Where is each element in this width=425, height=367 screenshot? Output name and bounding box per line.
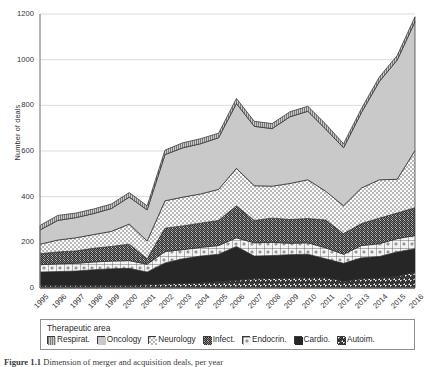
figure-caption-number: Figure 1.1 [4, 357, 41, 367]
chart-legend: Therapeutic area Respirat.OncologyNeurol… [40, 319, 415, 350]
figure-caption: Figure 1.1 Dimension of merger and acqui… [4, 357, 419, 367]
chart-plot-area [0, 0, 423, 314]
legend-swatch-solid-black [294, 336, 302, 344]
legend-item[interactable]: Oncology [97, 335, 142, 344]
legend-title: Therapeutic area [47, 323, 409, 334]
legend-item[interactable]: Respirat. [47, 335, 90, 344]
y-tick-label: 1200 [2, 9, 34, 18]
stacked-area-chart: Number of deals 020040060080010001200 19… [0, 0, 423, 314]
y-tick-label: 200 [2, 237, 34, 246]
legend-swatch-vertical-lines [47, 336, 55, 344]
legend-label: Infect. [213, 335, 235, 344]
legend-swatch-diagonal-hatch-up [337, 336, 345, 344]
legend-swatch-diagonal-hatch-dense [203, 336, 211, 344]
legend-item[interactable]: Cardio. [294, 335, 330, 344]
legend-swatch-grid-dots [242, 336, 250, 344]
legend-label: Neurology [158, 335, 195, 344]
legend-label: Endocrin. [252, 335, 287, 344]
y-axis-title: Number of deals [13, 83, 22, 183]
legend-item[interactable]: Endocrin. [242, 335, 287, 344]
area-series-group [40, 17, 415, 288]
legend-swatch-solid-gray [97, 336, 105, 344]
figure-caption-text: Dimension of merger and acquisition deal… [43, 357, 223, 367]
legend-swatch-fine-dots [148, 336, 156, 344]
y-tick-label: 0 [2, 283, 34, 292]
y-tick-label: 400 [2, 192, 34, 201]
y-tick-label: 1000 [2, 55, 34, 64]
y-tick-label: 600 [2, 146, 34, 155]
legend-item-list: Respirat.OncologyNeurologyInfect.Endocri… [47, 335, 409, 344]
y-tick-label: 800 [2, 100, 34, 109]
legend-label: Oncology [107, 335, 142, 344]
legend-item[interactable]: Autoim. [337, 335, 375, 344]
legend-label: Cardio. [304, 335, 330, 344]
legend-label: Autoim. [347, 335, 375, 344]
legend-item[interactable]: Infect. [203, 335, 235, 344]
legend-item[interactable]: Neurology [148, 335, 195, 344]
legend-label: Respirat. [57, 335, 90, 344]
